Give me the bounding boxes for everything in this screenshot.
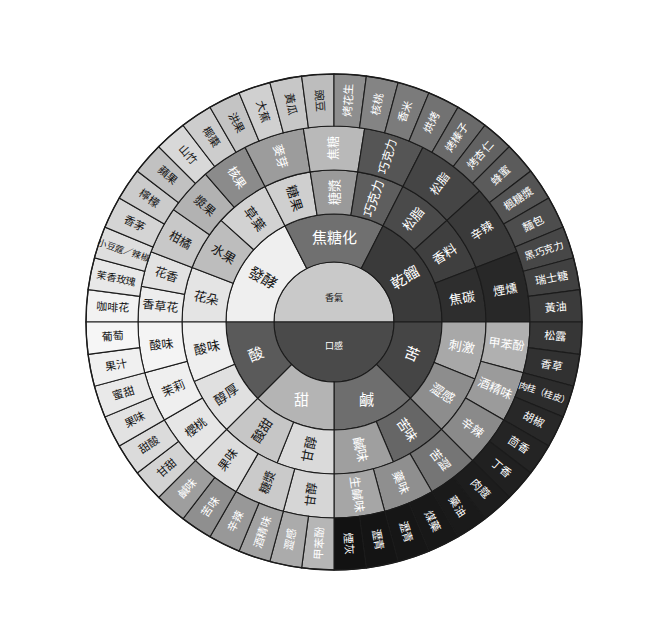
wheel-segments-group xyxy=(86,74,582,570)
flavor-wheel-container: 香氣口感發酵焦糖化乾餾苦鹹甜酸花朵水果草葉糖果糖漿巧克力松脂香料焦碳刺激澀感苦味… xyxy=(0,0,669,621)
wheel-segment[interactable] xyxy=(310,170,358,215)
coffee-flavor-wheel: 香氣口感發酵焦糖化乾餾苦鹹甜酸花朵水果草葉糖果糖漿巧克力松脂香料焦碳刺激澀感苦味… xyxy=(0,0,669,621)
wheel-segment[interactable] xyxy=(303,126,364,172)
